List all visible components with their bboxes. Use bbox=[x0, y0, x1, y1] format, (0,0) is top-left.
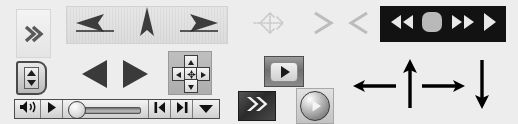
slider-thumb[interactable] bbox=[68, 101, 86, 119]
play-circle-icon bbox=[300, 91, 330, 121]
chevron-double-right-icon bbox=[23, 24, 45, 44]
arrow-up-button[interactable] bbox=[123, 7, 171, 43]
dpad-down-key[interactable] bbox=[184, 79, 198, 93]
arrow-right-icon bbox=[199, 65, 207, 83]
triangle-right-icon bbox=[118, 77, 152, 94]
stop-icon bbox=[420, 10, 444, 38]
arrow-right-glyph bbox=[420, 74, 466, 98]
arrow-up-glyph bbox=[398, 58, 422, 110]
arrow-down-icon bbox=[187, 77, 195, 95]
seek-slider[interactable] bbox=[63, 100, 149, 118]
chevron-double-right-icon bbox=[244, 94, 270, 118]
direction-pad bbox=[168, 51, 212, 95]
play-icon bbox=[46, 100, 57, 118]
arrow-right-button[interactable] bbox=[173, 7, 223, 43]
slider-groove bbox=[77, 107, 141, 114]
up-down-spinner-icon bbox=[24, 67, 39, 89]
play-rect-button[interactable] bbox=[264, 56, 304, 87]
step-back-button[interactable] bbox=[149, 100, 171, 118]
triple-arrow-toolbar bbox=[66, 6, 228, 44]
rewind-button[interactable] bbox=[389, 12, 415, 36]
fast-forward-icon bbox=[450, 12, 476, 36]
arrow-down-glyph bbox=[470, 58, 494, 110]
arrow-left-icon bbox=[175, 65, 183, 83]
chevron-right-icon[interactable] bbox=[306, 6, 340, 40]
menu-button[interactable] bbox=[193, 100, 219, 118]
step-forward-icon bbox=[175, 100, 189, 118]
media-transport-bar bbox=[380, 6, 506, 42]
vertical-spinner-button[interactable] bbox=[16, 61, 47, 95]
rewind-icon bbox=[389, 12, 415, 36]
play-icon bbox=[270, 62, 298, 82]
arrow-up-icon bbox=[136, 6, 158, 44]
step-fwd-button[interactable] bbox=[171, 100, 193, 118]
play-icon bbox=[481, 11, 497, 37]
arrow-left-glyph bbox=[352, 74, 398, 98]
arrow-left-button[interactable] bbox=[71, 7, 121, 43]
expand-panel[interactable] bbox=[16, 9, 51, 58]
caret-down-icon bbox=[198, 100, 214, 118]
play-button[interactable] bbox=[41, 100, 63, 118]
move-cursor-icon bbox=[252, 10, 286, 36]
next-button[interactable] bbox=[118, 57, 152, 91]
fast-forward-button[interactable] bbox=[450, 12, 476, 36]
media-slider-toolbar bbox=[14, 99, 220, 119]
widget-collage bbox=[0, 0, 518, 124]
fast-forward-button[interactable] bbox=[238, 91, 276, 121]
volume-button[interactable] bbox=[15, 100, 41, 118]
chevron-left-icon[interactable] bbox=[342, 6, 376, 40]
round-play-button[interactable] bbox=[296, 88, 334, 124]
step-backward-icon bbox=[153, 100, 167, 118]
triangle-left-icon bbox=[78, 77, 112, 94]
speaker-icon bbox=[18, 100, 38, 118]
arrow-left-icon bbox=[74, 12, 118, 38]
arrow-right-icon bbox=[176, 12, 220, 38]
previous-button[interactable] bbox=[78, 57, 112, 91]
play-button[interactable] bbox=[481, 11, 497, 37]
stop-button[interactable] bbox=[420, 10, 444, 38]
dpad-right-key[interactable] bbox=[196, 67, 210, 81]
